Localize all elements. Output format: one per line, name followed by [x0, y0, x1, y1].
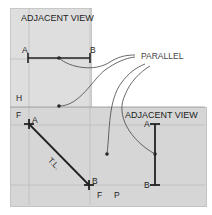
top-view-title: ADJACENT VIEW	[21, 14, 94, 23]
fold-label-f: F	[97, 191, 102, 200]
fold-label-p: P	[114, 191, 120, 200]
side-point-b-label: B	[144, 181, 150, 190]
front-point-a-label: A	[32, 116, 38, 125]
plane-label-h: H	[16, 94, 22, 103]
top-point-b-label: B	[90, 46, 96, 55]
front-point-b-label: B	[92, 177, 98, 186]
side-view-title: ADJACENT VIEW	[125, 111, 198, 120]
plane-label-f: F	[16, 111, 21, 120]
diagram-lines	[0, 0, 212, 215]
side-point-a-label: A	[144, 120, 150, 129]
top-point-a-label: A	[22, 46, 28, 55]
parallel-callout-label: PARALLEL	[141, 52, 183, 61]
